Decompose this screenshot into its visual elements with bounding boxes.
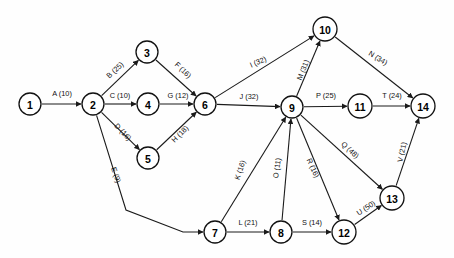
node-label-14: 14 [417, 101, 429, 113]
node-label-12: 12 [338, 227, 350, 239]
node-label-3: 3 [144, 47, 150, 59]
edge-label-r: R (16) [305, 157, 322, 179]
edge-label-b: B (25) [105, 60, 126, 80]
node-12[interactable]: 12 [332, 220, 356, 244]
edge-o-8-to-9 [282, 119, 291, 220]
node-2[interactable]: 2 [82, 93, 104, 115]
edge-label-m: M (31) [295, 58, 311, 81]
node-8[interactable]: 8 [270, 221, 292, 243]
node-13[interactable]: 13 [380, 186, 404, 210]
edge-labels-layer: A (10)B (25)C (10)D (16)E (9)F (16)G (12… [52, 49, 408, 227]
edge-label-t: T (24) [382, 91, 402, 100]
edge-label-c: C (10) [110, 91, 131, 100]
edge-label-k: K (16) [233, 159, 248, 181]
edge-label-q: Q (48) [339, 140, 360, 161]
node-label-5: 5 [145, 153, 151, 165]
edge-label-u: U (50) [355, 199, 377, 218]
edge-label-g: G (12) [168, 91, 189, 100]
node-label-9: 9 [289, 102, 295, 114]
edge-label-p: P (25) [316, 91, 336, 100]
edge-label-j: J (32) [240, 92, 259, 101]
node-label-8: 8 [278, 227, 284, 239]
node-label-7: 7 [212, 227, 218, 239]
node-label-11: 11 [354, 101, 365, 113]
node-5[interactable]: 5 [137, 147, 159, 169]
edge-p-9-to-11 [304, 106, 347, 107]
edge-label-e: E (9) [109, 166, 123, 184]
node-1[interactable]: 1 [19, 93, 41, 115]
node-label-6: 6 [202, 99, 208, 111]
node-10[interactable]: 10 [313, 17, 337, 41]
graph-svg: 1234567891011121314 A (10)B (25)C (10)D … [0, 0, 454, 258]
edge-label-f: F (16) [173, 60, 193, 80]
edge-label-v: V (21) [396, 141, 409, 163]
node-label-13: 13 [386, 193, 398, 205]
edge-label-h: H (18) [170, 124, 191, 145]
edge-j-6-to-9 [217, 104, 280, 106]
edge-label-l: L (21) [238, 218, 257, 227]
node-label-10: 10 [319, 24, 331, 36]
edge-label-d: D (16) [113, 121, 134, 142]
network-diagram-canvas: 1234567891011121314 A (10)B (25)C (10)D … [0, 0, 454, 258]
node-7[interactable]: 7 [204, 221, 226, 243]
node-9[interactable]: 9 [281, 96, 303, 118]
node-label-2: 2 [90, 99, 96, 111]
node-label-1: 1 [27, 99, 33, 111]
edge-label-a: A (10) [52, 89, 72, 98]
node-4[interactable]: 4 [137, 93, 159, 115]
node-label-4: 4 [145, 99, 151, 111]
node-6[interactable]: 6 [194, 93, 216, 115]
edge-label-i: I (32) [248, 54, 267, 69]
node-14[interactable]: 14 [411, 94, 435, 118]
edges-layer [42, 36, 419, 232]
edge-n-10-to-14 [335, 37, 413, 98]
edge-label-o: O (11) [271, 157, 283, 178]
node-3[interactable]: 3 [136, 41, 158, 63]
edge-label-s: S (14) [302, 218, 322, 227]
node-11[interactable]: 11 [348, 94, 372, 118]
